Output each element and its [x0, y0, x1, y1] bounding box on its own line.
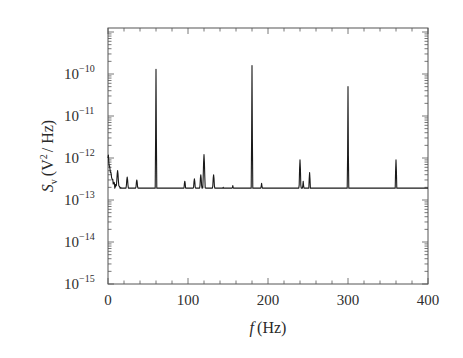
x-tick-labels: 0100200300400 [104, 292, 439, 308]
x-tick-label: 100 [177, 292, 200, 308]
y-axis-title: Sv(V2/ Hz) [38, 120, 59, 192]
y-tick-label: 10−15 [64, 273, 95, 292]
y-tick-label: 10−12 [64, 147, 95, 166]
y-tick-label: 10−10 [64, 63, 95, 82]
spectral-density-chart: 10−1510−1410−1310−1210−1110−10 010020030… [0, 0, 463, 358]
y-tick-label: 10−13 [64, 189, 95, 208]
y-tick-label: 10−11 [64, 105, 94, 124]
x-axis-title: f(Hz) [250, 319, 287, 337]
x-tick-label: 0 [104, 292, 112, 308]
y-tick-label: 10−14 [64, 231, 95, 250]
x-tick-label: 300 [337, 292, 360, 308]
x-tick-label: 400 [417, 292, 440, 308]
x-tick-label: 200 [257, 292, 280, 308]
y-tick-labels: 10−1510−1410−1310−1210−1110−10 [64, 63, 95, 292]
series-line [108, 65, 428, 188]
